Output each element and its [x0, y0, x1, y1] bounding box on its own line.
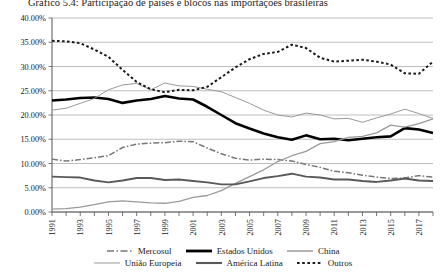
y-axis-tick-label: 0.00%	[25, 208, 47, 217]
y-axis-tick-label: 20.00%	[20, 111, 46, 120]
series-line-china	[52, 119, 433, 209]
legend-row-2: União Europeia América Latina Outros	[93, 258, 352, 268]
legend-swatch-uniao-europeia	[93, 259, 121, 267]
legend-item-outros[interactable]: Outros	[296, 258, 353, 268]
x-axis-tick-label: 2005	[246, 219, 255, 236]
chart-plot-area: 0.00%5.00%10.00%15.00%20.00%25.00%30.00%…	[0, 0, 445, 246]
series-line-mercosul	[52, 141, 433, 178]
legend-label-outros: Outros	[328, 258, 353, 268]
legend-item-estados-unidos[interactable]: Estados Unidos	[185, 246, 273, 256]
series-line-uni-o-europeia	[52, 83, 433, 122]
legend-swatch-china	[286, 247, 314, 255]
x-axis-tick-label: 2011	[330, 219, 339, 235]
x-axis-tick-label: 1991	[48, 219, 57, 236]
series-line-am-rica-latina	[52, 174, 433, 185]
y-axis-tick-label: 35.00%	[20, 38, 46, 47]
x-axis-tick-label: 1993	[76, 219, 85, 236]
chart-container: Gráfico 5.4: Participação de países e bl…	[0, 0, 445, 278]
x-axis-tick-label: 2001	[189, 219, 198, 236]
y-axis-tick-label: 30.00%	[20, 63, 46, 72]
legend-label-mercosul: Mercosul	[138, 246, 172, 256]
x-axis-tick-label: 1995	[105, 219, 114, 236]
y-axis-tick-label: 5.00%	[25, 184, 47, 193]
legend-label-china: China	[318, 246, 340, 256]
y-axis-tick-label: 10.00%	[20, 160, 46, 169]
chart-legend: Mercosul Estados Unidos China União E	[0, 246, 445, 268]
legend-label-estados-unidos: Estados Unidos	[217, 246, 273, 256]
legend-swatch-america-latina	[195, 259, 223, 267]
legend-label-uniao-europeia: União Europeia	[125, 258, 182, 268]
x-axis-tick-label: 2003	[218, 219, 227, 236]
legend-item-uniao-europeia[interactable]: União Europeia	[93, 258, 182, 268]
y-axis-tick-label: 40.00%	[20, 14, 46, 23]
x-axis-tick-label: 2013	[359, 219, 368, 236]
legend-item-china[interactable]: China	[286, 246, 340, 256]
legend-item-mercosul[interactable]: Mercosul	[106, 246, 172, 256]
x-axis-tick-label: 2009	[302, 219, 311, 236]
x-axis-tick-label: 2015	[387, 219, 396, 236]
x-axis-tick-label: 2017	[415, 219, 424, 236]
y-axis-tick-label: 15.00%	[20, 135, 46, 144]
x-axis-tick-label: 1999	[161, 219, 170, 236]
legend-swatch-estados-unidos	[185, 247, 213, 255]
legend-swatch-mercosul	[106, 247, 134, 255]
x-axis-tick-label: 1997	[133, 219, 142, 236]
legend-label-america-latina: América Latina	[227, 258, 283, 268]
y-axis-tick-label: 25.00%	[20, 87, 46, 96]
legend-row-1: Mercosul Estados Unidos China	[106, 246, 340, 256]
x-axis-tick-label: 2007	[274, 219, 283, 236]
legend-swatch-outros	[296, 259, 324, 267]
legend-item-america-latina[interactable]: América Latina	[195, 258, 283, 268]
